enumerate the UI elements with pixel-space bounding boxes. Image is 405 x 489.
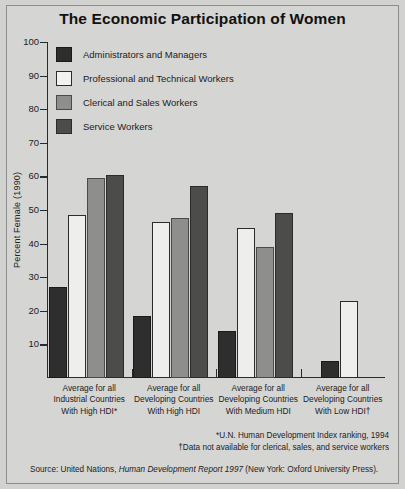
x-axis-category-label: Average for allDeveloping CountriesWith … xyxy=(132,383,217,417)
footnote-data-unavailable: †Data not available for clerical, sales,… xyxy=(178,442,389,454)
x-axis-category-label: Average for allDeveloping CountriesWith … xyxy=(301,383,386,417)
chart-footnotes: *U.N. Human Development Index ranking, 1… xyxy=(178,430,389,453)
y-axis-tick xyxy=(40,76,47,77)
y-axis-tick xyxy=(40,277,47,278)
y-axis-label: Percent Female (1990) xyxy=(12,172,22,268)
legend-item: Professional and Technical Workers xyxy=(56,68,234,89)
y-axis-tick-label: 20 xyxy=(13,305,39,316)
bar xyxy=(171,218,189,378)
y-axis-tick xyxy=(40,210,47,211)
dark-solid-swatch-icon xyxy=(56,47,72,62)
y-axis-tick xyxy=(40,244,47,245)
bar xyxy=(340,301,358,378)
bar xyxy=(152,222,170,378)
y-axis-tick-label: 10 xyxy=(13,338,39,349)
category-label-line: With Medium HDI xyxy=(216,406,301,417)
chart-legend: Administrators and Managers Professional… xyxy=(56,44,234,140)
bar xyxy=(256,247,274,378)
y-axis-tick xyxy=(40,344,47,345)
legend-item: Clerical and Sales Workers xyxy=(56,92,234,113)
bar xyxy=(106,175,124,378)
bar xyxy=(87,178,105,378)
source-suffix: (New York: Oxford University Press). xyxy=(243,465,378,474)
category-label-line: Average for all xyxy=(132,383,217,394)
category-label-line: Industrial Countries xyxy=(47,394,132,405)
x-axis-category-labels: Average for allIndustrial CountriesWith … xyxy=(47,383,385,423)
category-label-line: Developing Countries xyxy=(301,394,386,405)
y-axis-tick-label: 100 xyxy=(13,36,39,47)
source-prefix: Source: United Nations, xyxy=(30,465,119,474)
y-axis-tick xyxy=(40,109,47,110)
y-axis-tick xyxy=(40,42,47,43)
bar xyxy=(68,215,86,378)
bar xyxy=(275,213,293,378)
y-axis-tick-label: 80 xyxy=(13,103,39,114)
bar-group xyxy=(301,42,386,378)
bar xyxy=(190,186,208,378)
source-title: Human Development Report 1997 xyxy=(119,465,243,474)
category-label-line: Developing Countries xyxy=(216,394,301,405)
chart-title: The Economic Participation of Women xyxy=(0,10,405,28)
y-axis-tick-label: 30 xyxy=(13,271,39,282)
y-axis-tick xyxy=(40,176,47,177)
x-axis-category-label: Average for allDeveloping CountriesWith … xyxy=(216,383,301,417)
category-label-line: Average for all xyxy=(216,383,301,394)
legend-item: Administrators and Managers xyxy=(56,44,234,65)
legend-item-label: Administrators and Managers xyxy=(83,49,207,60)
legend-item-label: Service Workers xyxy=(83,121,153,132)
x-axis-category-label: Average for allIndustrial CountriesWith … xyxy=(47,383,132,417)
dark-gray-swatch-icon xyxy=(56,119,72,134)
bar xyxy=(133,316,151,378)
legend-item-label: Clerical and Sales Workers xyxy=(83,97,197,108)
category-label-line: With High HDI xyxy=(132,406,217,417)
white-outline-swatch-icon xyxy=(56,71,72,86)
legend-item-label: Professional and Technical Workers xyxy=(83,73,234,84)
bar xyxy=(237,228,255,378)
chart-source: Source: United Nations, Human Developmen… xyxy=(30,465,378,474)
y-axis-tick-label: 90 xyxy=(13,70,39,81)
bar xyxy=(218,331,236,378)
footnote-hdi: *U.N. Human Development Index ranking, 1… xyxy=(178,430,389,442)
medium-gray-swatch-icon xyxy=(56,95,72,110)
category-label-line: Developing Countries xyxy=(132,394,217,405)
y-axis-tick-label: 70 xyxy=(13,137,39,148)
category-label-line: Average for all xyxy=(47,383,132,394)
y-axis-tick xyxy=(40,311,47,312)
category-label-line: Average for all xyxy=(301,383,386,394)
bar xyxy=(321,361,339,378)
category-label-line: With High HDI* xyxy=(47,406,132,417)
category-label-line: With Low HDI† xyxy=(301,406,386,417)
bar xyxy=(49,287,67,378)
y-axis-tick xyxy=(40,143,47,144)
chart-figure: The Economic Participation of Women 1020… xyxy=(0,0,405,489)
legend-item: Service Workers xyxy=(56,116,234,137)
